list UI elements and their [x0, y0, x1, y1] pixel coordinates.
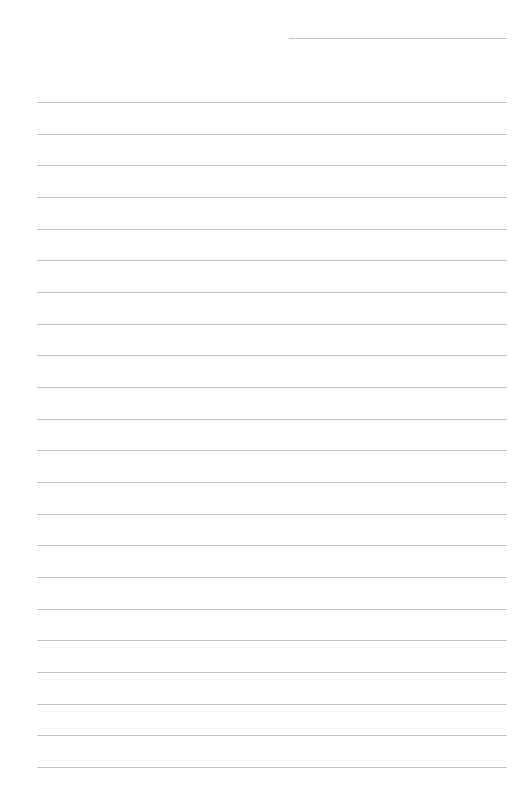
ruled-line: [37, 134, 507, 135]
ruled-line: [37, 229, 507, 230]
ruled-line: [37, 324, 507, 325]
ruled-line: [37, 482, 507, 483]
ruled-line: [37, 102, 507, 103]
ruled-line: [37, 355, 507, 356]
ruled-line: [37, 450, 507, 451]
ruled-line: [37, 260, 507, 261]
ruled-line: [37, 514, 507, 515]
ruled-line: [37, 387, 507, 388]
lined-paper-sheet: [0, 0, 518, 799]
ruled-line: [37, 640, 507, 641]
ruled-line: [37, 767, 507, 768]
ruled-line: [37, 545, 507, 546]
ruled-line: [37, 609, 507, 610]
ruled-line: [37, 165, 507, 166]
ruled-line: [37, 577, 507, 578]
header-date-line: [289, 38, 507, 39]
ruled-line: [37, 735, 507, 736]
ruled-line: [37, 197, 507, 198]
ruled-line: [37, 292, 507, 293]
ruled-line: [37, 704, 507, 705]
ruled-line: [37, 419, 507, 420]
ruled-line: [37, 672, 507, 673]
